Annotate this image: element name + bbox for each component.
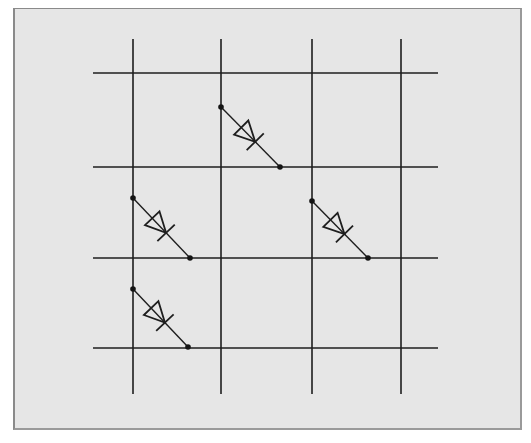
junction-dot <box>130 195 136 201</box>
diode-symbol <box>309 198 371 261</box>
diode-matrix-diagram <box>0 0 531 443</box>
junction-dot <box>309 198 315 204</box>
diode-symbol <box>130 195 193 261</box>
diode-lead <box>133 198 190 258</box>
diagram-stage <box>0 0 531 443</box>
diode-lead <box>133 289 188 347</box>
junction-dot <box>218 104 224 110</box>
column-lines <box>133 39 401 394</box>
diode-symbol <box>130 286 191 350</box>
diode-lead <box>312 201 368 258</box>
diode-lead <box>221 107 280 167</box>
diodes <box>130 104 371 350</box>
junction-dot <box>130 286 136 292</box>
junction-dot <box>365 255 371 261</box>
junction-dot <box>277 164 283 170</box>
diode-symbol <box>218 104 283 170</box>
junction-dot <box>185 344 191 350</box>
junction-dot <box>187 255 193 261</box>
